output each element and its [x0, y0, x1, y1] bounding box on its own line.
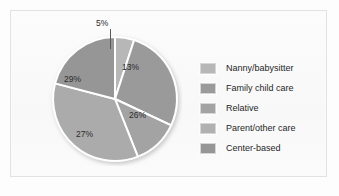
legend-item-relative: Relative: [200, 98, 328, 118]
pie-chart: [48, 32, 182, 166]
legend-item-nanny-babysitter: Nanny/babysitter: [200, 58, 328, 78]
legend-swatch-icon: [200, 143, 216, 154]
pie-label-26-percent: 26%: [129, 110, 146, 120]
pie-label-5-percent: 5%: [96, 18, 108, 28]
legend-item-family-child-care: Family child care: [200, 78, 328, 98]
legend-swatch-icon: [200, 63, 216, 74]
pie-label-13-percent: 13%: [122, 62, 139, 72]
legend-label: Family child care: [226, 83, 294, 93]
pie-chart-svg: [48, 32, 182, 166]
legend-item-parent-other-care: Parent/other care: [200, 118, 328, 138]
pie-label-29-percent: 29%: [64, 74, 81, 84]
legend-label: Center-based: [226, 143, 281, 153]
legend-swatch-icon: [200, 123, 216, 134]
chart-legend: Nanny/babysitter Family child care Relat…: [200, 58, 328, 158]
leader-line-5-percent: [110, 29, 111, 49]
legend-item-center-based: Center-based: [200, 138, 328, 158]
pie-label-27-percent: 27%: [76, 129, 93, 139]
legend-swatch-icon: [200, 103, 216, 114]
pie-chart-figure: 5% 13% 26% 27% 29% Nanny/babysitter Fami…: [0, 0, 339, 196]
legend-swatch-icon: [200, 83, 216, 94]
legend-label: Relative: [226, 103, 259, 113]
legend-label: Nanny/babysitter: [226, 63, 294, 73]
pie-slices-group: [53, 37, 177, 161]
legend-label: Parent/other care: [226, 123, 296, 133]
